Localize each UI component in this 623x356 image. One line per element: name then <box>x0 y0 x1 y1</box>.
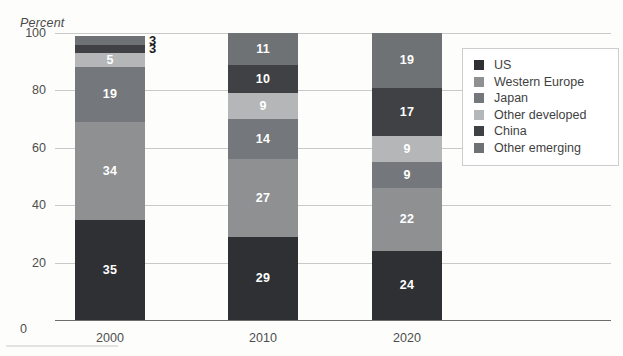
y-axis-tick-20: 20 <box>32 256 46 270</box>
bar-segment-2020-china[interactable]: 17 <box>372 88 442 137</box>
bar-segment-value: 29 <box>256 272 270 285</box>
bar-segment-value: 27 <box>256 192 270 205</box>
legend-item-label: Other developed <box>494 109 586 122</box>
bar-segment-2000-other-developed[interactable]: 5 <box>75 53 145 67</box>
legend-swatch-icon <box>474 110 484 120</box>
y-axis-tick-100: 100 <box>25 26 46 40</box>
bar-segment-value: 9 <box>403 169 410 182</box>
bar-segment-value: 9 <box>259 100 266 113</box>
legend-item-label: Japan <box>494 92 528 105</box>
bar-segment-2000-us[interactable]: 35 <box>75 220 145 320</box>
bar-segment-2020-us[interactable]: 24 <box>372 251 442 320</box>
legend-swatch-icon <box>474 60 484 70</box>
bar-segment-2010-us[interactable]: 29 <box>228 237 298 320</box>
x-axis-tick-2000: 2000 <box>75 331 145 345</box>
bar-segment-2010-japan[interactable]: 14 <box>228 119 298 159</box>
bar-segment-2010-china[interactable]: 10 <box>228 65 298 94</box>
scan-artifact <box>6 345 118 347</box>
bar-segment-2020-japan[interactable]: 9 <box>372 162 442 188</box>
bar-2020[interactable]: 24229917192020 <box>372 33 442 320</box>
legend-swatch-icon <box>474 93 484 103</box>
bar-segment-2010-western-europe[interactable]: 27 <box>228 159 298 236</box>
bar-segment-2020-western-europe[interactable]: 22 <box>372 188 442 251</box>
legend-item-label: Western Europe <box>494 76 584 89</box>
bar-segment-value: 3 <box>149 34 156 47</box>
bar-segment-value: 17 <box>400 106 414 119</box>
bar-segment-2000-japan[interactable]: 19 <box>75 67 145 122</box>
bar-segment-value: 10 <box>256 73 270 86</box>
x-axis-tick-2010: 2010 <box>228 331 298 345</box>
bar-segment-2020-other-developed[interactable]: 9 <box>372 136 442 162</box>
bar-2000[interactable]: 3534195332000 <box>75 36 145 320</box>
x-axis-baseline <box>55 320 611 321</box>
x-axis-zero-label: 0 <box>20 322 27 336</box>
y-axis-tick-60: 60 <box>32 141 46 155</box>
legend-item-label: US <box>494 59 511 72</box>
bar-2010[interactable]: 292714910112010 <box>228 33 298 320</box>
bar-segment-value: 22 <box>400 213 414 226</box>
bar-segment-value: 24 <box>400 279 414 292</box>
gridline-100 <box>55 33 611 34</box>
legend-item-china[interactable]: China <box>474 123 608 140</box>
legend-item-label: Other emerging <box>494 142 581 155</box>
bar-segment-2000-western-europe[interactable]: 34 <box>75 122 145 220</box>
bar-segment-2000-china[interactable]: 3 <box>75 45 145 54</box>
legend-item-label: China <box>494 125 527 138</box>
legend-item-western-europe[interactable]: Western Europe <box>474 74 608 91</box>
bar-segment-value: 14 <box>256 133 270 146</box>
bar-segment-2020-other-emerging[interactable]: 19 <box>372 33 442 88</box>
legend-item-other-emerging[interactable]: Other emerging <box>474 140 608 157</box>
bar-segment-2010-other-developed[interactable]: 9 <box>228 93 298 119</box>
legend-item-japan[interactable]: Japan <box>474 90 608 107</box>
bar-segment-value: 9 <box>403 143 410 156</box>
bar-segment-2010-other-emerging[interactable]: 11 <box>228 33 298 65</box>
y-axis-tick-80: 80 <box>32 83 46 97</box>
bar-segment-value: 34 <box>103 165 117 178</box>
x-axis-tick-2020: 2020 <box>372 331 442 345</box>
legend-swatch-icon <box>474 126 484 136</box>
bar-segment-value: 19 <box>400 54 414 67</box>
bar-segment-2000-other-emerging[interactable]: 3 <box>75 36 145 45</box>
legend-swatch-icon <box>474 143 484 153</box>
stacked-bar-chart: Percent 20406080100353419533200029271491… <box>0 0 623 356</box>
bar-segment-value: 35 <box>103 264 117 277</box>
bar-segment-value: 19 <box>103 88 117 101</box>
legend-swatch-icon <box>474 77 484 87</box>
bar-segment-value: 11 <box>256 43 270 56</box>
bar-segment-value: 5 <box>106 54 113 67</box>
chart-legend: USWestern EuropeJapanOther developedChin… <box>462 48 619 166</box>
legend-item-other-developed[interactable]: Other developed <box>474 107 608 124</box>
legend-item-us[interactable]: US <box>474 57 608 74</box>
y-axis-tick-40: 40 <box>32 198 46 212</box>
